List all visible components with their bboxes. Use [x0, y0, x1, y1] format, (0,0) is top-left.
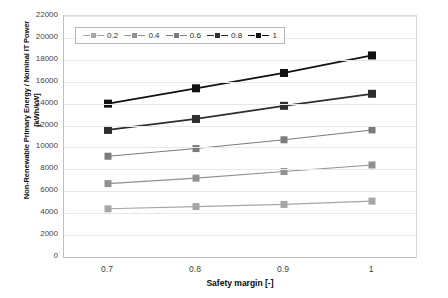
data-point-marker	[105, 153, 112, 160]
y-axis-tick-label: 10000	[16, 142, 58, 150]
legend-line-icon	[83, 35, 90, 37]
gridline	[64, 16, 416, 17]
y-axis-tick-label: 8000	[16, 164, 58, 172]
legend-label: 1	[272, 31, 276, 40]
data-point-marker	[193, 175, 200, 182]
data-point-marker	[369, 126, 376, 133]
data-point-marker	[193, 145, 200, 152]
gridline	[64, 169, 416, 170]
y-axis-tick-label: 4000	[16, 208, 58, 216]
gridline	[64, 60, 416, 61]
gridline	[64, 147, 416, 148]
legend: 0.20.40.60.81	[75, 27, 285, 44]
series-line	[108, 165, 372, 184]
data-point-marker	[369, 161, 376, 168]
data-point-marker	[280, 69, 288, 77]
y-axis-tick-label: 22000	[16, 11, 58, 19]
legend-marker-icon	[91, 33, 96, 38]
data-point-marker	[368, 90, 376, 98]
gridline	[64, 104, 416, 105]
legend-line-icon	[262, 35, 269, 37]
data-point-marker	[281, 136, 288, 143]
data-point-marker	[105, 180, 112, 187]
x-axis-tick-label: 0.8	[175, 264, 215, 274]
data-point-marker	[192, 84, 200, 92]
legend-marker-icon	[256, 33, 261, 38]
legend-line-icon	[221, 35, 228, 37]
legend-label: 0.8	[231, 31, 242, 40]
data-point-marker	[369, 198, 376, 205]
gridline	[64, 213, 416, 214]
legend-item[interactable]: 0.4	[124, 31, 159, 40]
y-axis-tick-label: 12000	[16, 121, 58, 129]
series-line	[108, 55, 372, 103]
x-axis-tick-label: 0.7	[87, 264, 127, 274]
x-axis-tick-label: 0.9	[263, 264, 303, 274]
y-axis-tick-label: 14000	[16, 99, 58, 107]
y-axis-tick-label: 20000	[16, 33, 58, 41]
data-point-marker	[281, 201, 288, 208]
legend-line-icon	[97, 35, 104, 37]
chart-container: Non-Renewable Primary Energy / Nominal I…	[0, 0, 448, 298]
gridline	[64, 82, 416, 83]
data-point-marker	[368, 51, 376, 59]
y-axis-tick-label: 2000	[16, 230, 58, 238]
legend-label: 0.6	[190, 31, 201, 40]
data-point-marker	[104, 126, 112, 134]
series-line	[108, 94, 372, 130]
y-axis-tick-label: 0	[16, 252, 58, 260]
plot-area	[63, 15, 417, 258]
gridline	[64, 235, 416, 236]
y-axis-tick-label: 16000	[16, 77, 58, 85]
legend-item[interactable]: 0.2	[83, 31, 118, 40]
gridline	[64, 126, 416, 127]
legend-item[interactable]: 0.8	[207, 31, 242, 40]
data-point-marker	[193, 203, 200, 210]
legend-line-icon	[166, 35, 173, 37]
y-axis-tick-label: 6000	[16, 186, 58, 194]
legend-label: 0.4	[148, 31, 159, 40]
y-axis-tick-label: 18000	[16, 55, 58, 63]
data-point-marker	[105, 205, 112, 212]
legend-marker-icon	[174, 33, 179, 38]
legend-marker-icon	[215, 33, 220, 38]
legend-line-icon	[138, 35, 145, 37]
data-series-layer	[64, 16, 416, 257]
data-point-marker	[192, 115, 200, 123]
legend-label: 0.2	[107, 31, 118, 40]
gridline	[64, 191, 416, 192]
legend-line-icon	[207, 35, 214, 37]
series-line	[108, 201, 372, 209]
legend-item[interactable]: 0.6	[166, 31, 201, 40]
legend-marker-icon	[132, 33, 137, 38]
x-axis-title: Safety margin [-]	[63, 278, 417, 288]
legend-line-icon	[124, 35, 131, 37]
legend-line-icon	[248, 35, 255, 37]
legend-item[interactable]: 1	[248, 31, 276, 40]
legend-line-icon	[180, 35, 187, 37]
series-line	[108, 130, 372, 156]
x-axis-tick-label: 1	[351, 264, 391, 274]
